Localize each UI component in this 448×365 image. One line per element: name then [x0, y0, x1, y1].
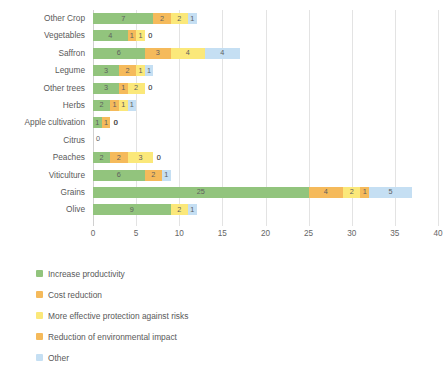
bar-segment[interactable]: 25 — [93, 187, 309, 198]
stacked-bar[interactable]: 41100 — [93, 30, 145, 41]
bar-segment[interactable]: 9 — [93, 204, 171, 215]
stacked-bar[interactable]: 22300 — [93, 152, 153, 163]
stacked-bar[interactable]: 90201 — [93, 204, 197, 215]
y-axis-label: Legume — [0, 62, 89, 79]
bar-value-label: 2 — [171, 206, 188, 213]
x-axis-tick-label: 5 — [134, 229, 139, 238]
bar-segment[interactable]: 6 — [93, 170, 145, 181]
bar-segment[interactable]: 2 — [93, 100, 110, 111]
bar-segment[interactable]: 1 — [188, 13, 197, 24]
bar-value-label: 25 — [93, 189, 309, 196]
bar-segment[interactable]: 5 — [369, 187, 412, 198]
bar-segment[interactable]: 3 — [93, 83, 119, 94]
gridline — [438, 10, 439, 226]
bar-rows: 7220141100634043210131200211011100002230… — [93, 10, 438, 226]
bar-value-label: 1 — [93, 119, 102, 126]
bar-value-label: 1 — [110, 102, 119, 109]
bar-value-label: 0 — [154, 154, 163, 161]
stacked-bar[interactable]: 21101 — [93, 100, 136, 111]
x-axis-tick-label: 30 — [347, 229, 356, 238]
y-axis-label: Saffron — [0, 45, 89, 62]
stacked-bar[interactable]: 254215 — [93, 187, 412, 198]
stacked-bar[interactable]: 31200 — [93, 83, 145, 94]
bar-segment[interactable]: 2 — [153, 13, 170, 24]
bar-segment[interactable]: 1 — [360, 187, 369, 198]
bar-segment[interactable]: 4 — [171, 48, 206, 59]
bar-value-label: 1 — [136, 67, 145, 74]
y-axis-label: Olive — [0, 201, 89, 218]
y-axis-label: Other trees — [0, 80, 89, 97]
bar-value-label: 1 — [128, 32, 137, 39]
x-axis-tick-label: 25 — [304, 229, 313, 238]
bar-value-label: 2 — [119, 67, 136, 74]
bar-segment[interactable]: 4 — [93, 30, 128, 41]
legend-item[interactable]: Reduction of environmental impact — [36, 326, 268, 347]
legend-item[interactable]: More effective protection against risks — [36, 305, 268, 326]
bar-value-label: 6 — [93, 171, 145, 178]
bar-segment[interactable]: 1 — [93, 117, 102, 128]
y-axis-category-labels: Other CropVegetablesSaffronLegumeOther t… — [0, 10, 89, 219]
bar-segment[interactable]: 2 — [145, 170, 162, 181]
bar-segment[interactable]: 2 — [119, 65, 136, 76]
bar-value-label: 1 — [188, 15, 197, 22]
bar-value-label: 6 — [93, 50, 145, 57]
legend-item[interactable]: Increase productivity — [36, 263, 268, 284]
bar-value-label: 1 — [119, 102, 128, 109]
bar-value-label: 2 — [128, 84, 145, 91]
y-axis-label: Citrus — [0, 132, 89, 149]
bar-segment[interactable]: 1 — [128, 100, 137, 111]
bar-value-label: 2 — [343, 189, 360, 196]
bar-value-label: 4 — [171, 50, 206, 57]
y-axis-label: Other Crop — [0, 10, 89, 27]
x-axis-tick-label: 0 — [91, 229, 96, 238]
bar-value-label: 2 — [153, 15, 170, 22]
bar-segment[interactable]: 1 — [136, 65, 145, 76]
bar-row: 22300 — [93, 149, 438, 166]
bar-segment[interactable]: 3 — [145, 48, 171, 59]
bar-segment[interactable]: 2 — [110, 152, 127, 163]
stacked-bar[interactable]: 72201 — [93, 13, 197, 24]
y-axis-label: Peaches — [0, 149, 89, 166]
bar-value-label: 9 — [93, 206, 171, 213]
bar-segment[interactable]: 2 — [128, 83, 145, 94]
bar-segment[interactable]: 1 — [145, 65, 154, 76]
bar-value-label: 1 — [162, 171, 171, 178]
x-axis-tick-label: 15 — [218, 229, 227, 238]
bar-segment[interactable]: 1 — [188, 204, 197, 215]
bar-segment[interactable]: 7 — [93, 13, 153, 24]
bar-segment[interactable]: 1 — [119, 83, 128, 94]
bar-segment[interactable]: 1 — [136, 30, 145, 41]
bar-segment[interactable]: 6 — [93, 48, 145, 59]
bar-segment[interactable]: 2 — [171, 13, 188, 24]
bar-segment[interactable]: 1 — [102, 117, 111, 128]
legend-label: Increase productivity — [48, 269, 125, 279]
bar-value-label: 3 — [145, 50, 171, 57]
bar-value-label: 3 — [93, 84, 119, 91]
x-axis-tick-label: 20 — [261, 229, 270, 238]
x-axis-tick-label: 40 — [433, 229, 442, 238]
bar-segment[interactable]: 4 — [309, 187, 344, 198]
bar-row: 63404 — [93, 45, 438, 62]
legend-item[interactable]: Other — [36, 347, 268, 365]
bar-value-label: 1 — [128, 102, 137, 109]
bar-segment[interactable]: 3 — [93, 65, 119, 76]
bar-row: 11000 — [93, 114, 438, 131]
stacked-bar[interactable]: 62001 — [93, 170, 171, 181]
legend-item[interactable]: Cost reduction — [36, 284, 268, 305]
bar-segment[interactable]: 1 — [162, 170, 171, 181]
stacked-bar[interactable]: 32101 — [93, 65, 153, 76]
bar-segment[interactable]: 2 — [343, 187, 360, 198]
stacked-bar[interactable]: 63404 — [93, 48, 240, 59]
bar-segment[interactable]: 1 — [110, 100, 119, 111]
bar-row: 31200 — [93, 80, 438, 97]
y-axis-label: Apple cultivation — [0, 114, 89, 131]
bar-segment[interactable]: 4 — [205, 48, 240, 59]
stacked-bar[interactable]: 11000 — [93, 117, 110, 128]
bar-segment[interactable]: 2 — [171, 204, 188, 215]
legend-swatch-icon — [36, 270, 43, 277]
bar-segment[interactable]: 1 — [119, 100, 128, 111]
bar-segment[interactable]: 1 — [128, 30, 137, 41]
bar-value-label: 2 — [110, 154, 127, 161]
bar-segment[interactable]: 3 — [128, 152, 154, 163]
bar-segment[interactable]: 2 — [93, 152, 110, 163]
